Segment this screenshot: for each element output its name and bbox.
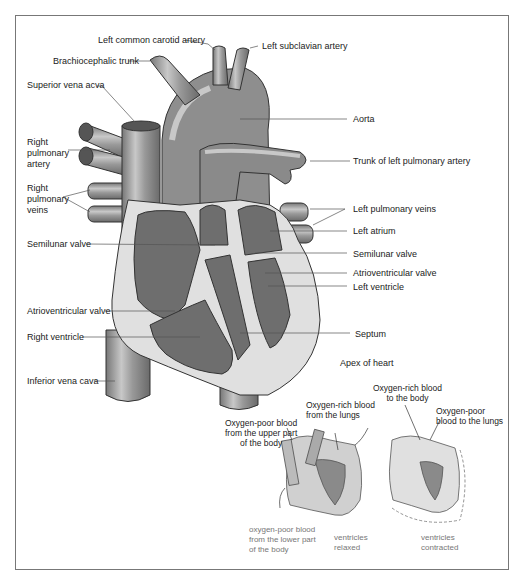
label-trunk-left-pulmonary-artery: Trunk of left pulmonary artery [353, 156, 470, 167]
label-semilunar-valve-right-side: Semilunar valve [27, 239, 91, 250]
inset-label-ventricles-contracted: ventricles contracted [421, 533, 458, 553]
label-inferior-vena-cava: Inferior vena cava [27, 376, 99, 387]
label-right-pulmonary-veins: Right pulmonary veins [27, 183, 69, 216]
label-left-ventricle: Left ventricle [353, 282, 404, 293]
label-aorta: Aorta [353, 114, 375, 125]
inset-label-ventricles-relaxed: ventricles relaxed [334, 533, 368, 553]
inset-label-oxygen-poor-upper: Oxygen-poor blood from the upper part of… [225, 418, 297, 448]
inset-label-oxygen-rich-to-body: Oxygen-rich blood to the body [373, 383, 442, 403]
inset-heart-contracted [389, 436, 465, 522]
inset-label-oxygen-poor-to-lungs: Oxygen-poor blood to the lungs [436, 406, 503, 426]
label-septum: Septum [355, 329, 386, 340]
label-left-common-carotid-artery: Left common carotid artery [98, 35, 205, 46]
label-superior-vena-cava: Superior vena acva [27, 80, 105, 91]
label-right-ventricle: Right ventricle [27, 332, 84, 343]
label-left-atrium: Left atrium [353, 226, 396, 237]
label-atrioventricular-valve-right-side: Atrioventricular valve [27, 306, 111, 317]
label-brachiocephalic-trunk: Brachiocephalic trunk [53, 56, 139, 67]
inset-label-oxygen-rich-from-lungs: Oxygen-rich blood from the lungs [306, 400, 375, 420]
inset-label-oxygen-poor-lower: oxygen-poor blood from the lower part of… [249, 525, 316, 555]
label-left-subclavian-artery: Left subclavian artery [262, 41, 348, 52]
label-semilunar-valve-left-side: Semilunar valve [353, 249, 417, 260]
label-left-pulmonary-veins: Left pulmonary veins [353, 204, 436, 215]
right-pulmonary-artery [79, 123, 128, 175]
label-atrioventricular-valve-left-side: Atrioventricular valve [353, 268, 437, 279]
label-right-pulmonary-artery: Right pulmonary artery [27, 137, 69, 170]
label-apex-of-heart: Apex of heart [340, 358, 394, 369]
